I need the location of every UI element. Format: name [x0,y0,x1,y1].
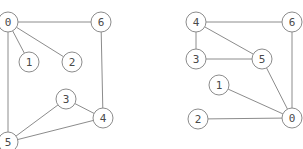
graph-canvas: 01234564635120 [0,0,303,149]
node-label: 6 [98,16,105,29]
graph-node[interactable]: 3 [186,49,206,69]
node-label: 4 [100,112,107,125]
graph-node[interactable]: 2 [188,109,208,129]
node-label: 5 [259,53,266,66]
graph-node[interactable]: 6 [282,12,302,32]
graph-edge [228,89,283,114]
graph-node[interactable]: 0 [282,108,302,128]
node-label: 1 [26,56,33,69]
graph-node[interactable]: 1 [19,52,39,72]
node-label: 0 [289,112,296,125]
node-label: 0 [5,16,12,29]
graph-edge [208,118,282,119]
graph-node[interactable]: 5 [0,132,18,149]
graph-node[interactable]: 0 [0,12,18,32]
graph-edge [13,31,25,53]
graph-figure: 01234564635120 [0,0,303,149]
node-label: 3 [63,93,70,106]
node-label: 2 [195,113,202,126]
graph-node[interactable]: 3 [56,89,76,109]
node-label: 5 [5,136,12,149]
node-label: 4 [193,16,200,29]
graph-node[interactable]: 6 [91,12,111,32]
graph-node[interactable]: 4 [93,108,113,128]
graph-node[interactable]: 2 [62,52,82,72]
graph-edge [75,104,94,114]
nodes-layer: 01234564635120 [0,12,302,149]
node-label: 3 [193,53,200,66]
graph-edge [18,120,94,139]
graph-edge [205,27,254,54]
graph-node[interactable]: 4 [186,12,206,32]
node-label: 6 [289,16,296,29]
node-label: 2 [69,56,76,69]
edges-layer [8,22,292,140]
graph-edge [101,32,103,108]
node-label: 1 [216,79,223,92]
graph-node[interactable]: 1 [209,75,229,95]
graph-node[interactable]: 5 [252,49,272,69]
graph-edge [267,68,288,109]
